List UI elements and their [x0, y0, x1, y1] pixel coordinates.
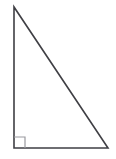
right-triangle-figure [0, 0, 116, 159]
